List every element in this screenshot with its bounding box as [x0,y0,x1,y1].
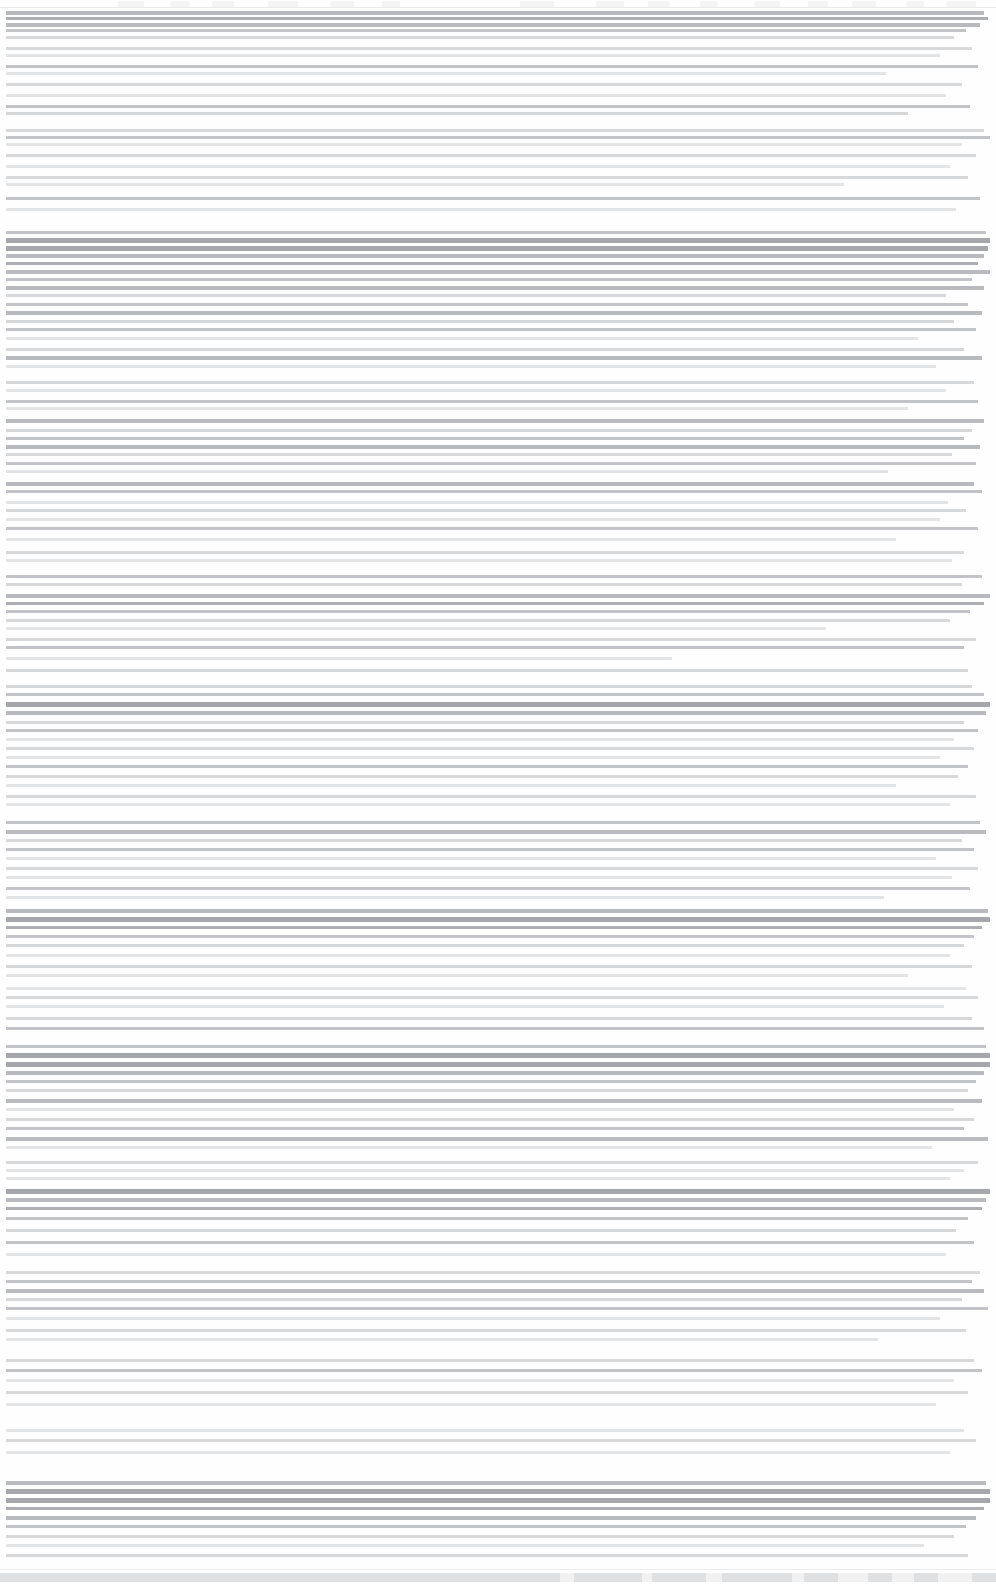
text-line [6,1498,990,1503]
text-line [6,1146,932,1149]
text-line [6,756,940,759]
text-line [6,400,978,403]
text-line [6,738,954,741]
text-line [6,1307,988,1310]
text-line [6,1489,990,1494]
text-line [6,518,940,521]
text-line [6,1253,946,1256]
text-line [6,17,988,20]
text-line [6,482,974,486]
text-line [6,1525,966,1528]
text-line [6,657,672,660]
footer-gap [892,1573,914,1582]
text-line [6,775,958,778]
text-line [6,996,978,999]
text-line [6,944,964,947]
text-line [6,765,968,768]
footer-divider [0,1569,996,1570]
text-line [6,1379,954,1382]
text-line [6,165,950,168]
section-block-4 [0,685,996,809]
text-line [6,821,980,824]
text-line [6,583,962,586]
text-line [6,935,974,938]
text-line [6,1027,984,1030]
text-line [6,1451,950,1454]
text-line [6,729,978,732]
footer-gap [792,1573,804,1582]
text-line [6,1535,954,1538]
text-line [6,867,978,870]
text-line [6,926,982,929]
emphasis-band-1 [0,231,996,371]
text-line [6,1053,990,1058]
text-line [6,1369,982,1372]
text-line [6,1177,950,1180]
text-line [6,954,950,957]
text-line [6,638,976,641]
text-line [6,381,974,384]
text-line [6,254,984,258]
text-line [6,909,988,913]
text-line [6,1229,956,1232]
text-line [6,348,964,351]
text-line [6,1108,954,1111]
text-line [6,303,968,306]
text-line [6,987,966,990]
section-block-1 [0,129,996,214]
footer-bar [0,1569,996,1585]
text-line [6,669,968,672]
text-line [6,278,972,281]
text-line [6,876,952,879]
footer-gap [706,1573,722,1582]
text-line [6,610,970,613]
text-line [6,208,956,211]
text-line [6,538,896,541]
text-line [6,1271,980,1274]
emphasis-band-3 [0,1045,996,1152]
text-line [6,1554,968,1557]
text-line [6,1217,968,1220]
text-line [6,429,972,432]
text-line [6,575,982,578]
text-line [6,917,990,922]
text-line [6,1161,978,1164]
text-line [6,72,886,75]
text-line [6,594,990,598]
text-line [6,896,884,899]
text-line [6,1429,964,1432]
text-line [6,94,946,97]
text-line [6,136,990,139]
text-line [6,1089,968,1092]
text-line [6,1045,986,1048]
text-line [6,1169,964,1172]
text-line [6,857,936,860]
text-line [6,965,972,968]
text-line [6,1507,984,1510]
text-line [6,627,826,630]
text-line [6,36,954,39]
text-line [6,509,966,512]
text-line [6,176,968,179]
text-line [6,685,972,688]
section-block-9 [0,1359,996,1409]
text-line [6,54,940,57]
text-line [6,1137,988,1141]
text-line [6,11,984,15]
text-line [6,246,988,251]
text-line [6,83,962,86]
text-line [6,105,970,108]
footer-gap [642,1573,652,1582]
section-block-3 [0,575,996,675]
text-line [6,803,950,806]
text-line [6,1481,986,1485]
text-line [6,1280,972,1283]
chrome-divider [0,7,996,8]
text-line [6,1516,976,1520]
text-line [6,1298,962,1301]
footer-gap [938,1573,972,1582]
text-line [6,1439,976,1442]
text-line [6,238,990,243]
text-line [6,419,984,423]
text-line [6,183,844,186]
